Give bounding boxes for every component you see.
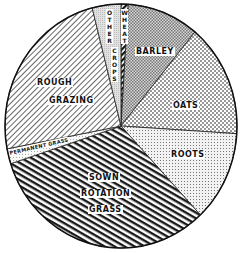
pie-chart xyxy=(0,0,240,253)
label-crops: CROPS xyxy=(111,47,118,82)
label-rough-line2: GRAZING xyxy=(48,96,94,105)
label-sown-line1: SOWN xyxy=(88,173,120,182)
label-oats: OATS xyxy=(172,101,199,110)
label-rough-line1: ROUGH xyxy=(36,78,73,87)
label-other: OTHER xyxy=(106,9,113,44)
label-sown-line3: GRASS xyxy=(88,205,123,214)
label-wheat: WHEAT xyxy=(121,9,128,44)
label-sown-line2: ROTATION xyxy=(80,189,131,198)
label-roots: ROOTS xyxy=(170,150,205,159)
label-barley: BARLEY xyxy=(135,47,175,56)
